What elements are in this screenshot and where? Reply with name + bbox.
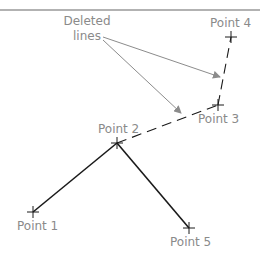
annotation-arrow-to-lower-line	[103, 40, 181, 113]
point-3-label: Point 3	[198, 112, 239, 126]
deleted-segment-point3-point4	[218, 37, 231, 105]
annotation-label-line1: Deleted	[63, 14, 110, 28]
point-4-label: Point 4	[210, 16, 251, 30]
segment-point1-point2	[33, 143, 117, 212]
point-3-marker	[212, 99, 224, 111]
point-1-label: Point 1	[17, 219, 58, 233]
point-2-label: Point 2	[98, 122, 139, 136]
segment-point2-point5	[117, 143, 189, 228]
polyline-diagram: Deleted lines Point 1 Point 2 Point 3 Po…	[0, 0, 260, 259]
point-4-marker	[225, 31, 237, 43]
annotation-label-line2: lines	[73, 29, 101, 43]
point-5-label: Point 5	[170, 235, 211, 249]
